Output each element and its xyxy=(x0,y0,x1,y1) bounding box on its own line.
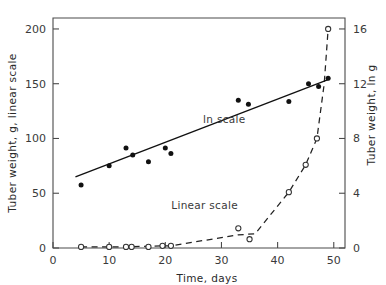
linear-scale-point xyxy=(303,162,308,167)
ln-scale-point xyxy=(286,99,291,104)
linear-scale-point xyxy=(160,243,165,248)
chart-canvas: 01020304050 050100150200 0481216 ln scal… xyxy=(0,0,386,285)
y-tick-label: 100 xyxy=(25,132,46,145)
linear-scale-point xyxy=(286,190,291,195)
x-tick-label: 0 xyxy=(50,254,57,267)
ln-scale-point xyxy=(236,98,241,103)
x-tick-label: 30 xyxy=(214,254,228,267)
x-tick-label: 40 xyxy=(271,254,285,267)
y-tick-label: 150 xyxy=(25,78,46,91)
y2-tick-label: 16 xyxy=(353,23,367,36)
ln-scale-point xyxy=(316,84,321,89)
linear-scale-point xyxy=(107,244,112,249)
ln-scale-point xyxy=(130,152,135,157)
x-tick-label: 50 xyxy=(327,254,341,267)
annotation-ln-scale: ln scale xyxy=(203,113,245,125)
ln-scale-point xyxy=(326,76,331,81)
y-tick-label: 0 xyxy=(39,242,46,255)
linear-scale-point xyxy=(168,243,173,248)
y2-tick-label: 8 xyxy=(353,132,360,145)
ln-scale-point xyxy=(168,151,173,156)
linear-scale-point xyxy=(247,237,252,242)
y-tick-label: 50 xyxy=(32,187,46,200)
chart-figure: 01020304050 050100150200 0481216 ln scal… xyxy=(0,0,386,285)
y-axis-left-title: Tuber weight, g, linear scale xyxy=(6,53,18,213)
x-axis-title: Time, days xyxy=(175,272,237,284)
y2-tick-label: 4 xyxy=(353,187,360,200)
linear-scale-point xyxy=(78,244,83,249)
x-tick-label: 20 xyxy=(158,254,172,267)
y-axis-right-title: Tuber weight, ln g xyxy=(365,64,377,166)
linear-scale-point xyxy=(146,244,151,249)
linear-scale-point xyxy=(129,244,134,249)
annotation-linear-scale: Linear scale xyxy=(171,199,238,211)
ln-scale-point xyxy=(107,163,112,168)
linear-scale-point xyxy=(314,136,319,141)
ln-scale-point xyxy=(306,81,311,86)
ln-scale-point xyxy=(146,159,151,164)
ln-scale-point xyxy=(124,146,129,151)
linear-scale-point xyxy=(236,226,241,231)
ln-scale-point xyxy=(163,146,168,151)
linear-scale-point xyxy=(326,26,331,31)
ln-scale-point xyxy=(79,183,84,188)
y2-tick-label: 0 xyxy=(353,242,360,255)
x-tick-label: 10 xyxy=(102,254,116,267)
chart-background xyxy=(0,0,386,285)
y-tick-label: 200 xyxy=(25,23,46,36)
ln-scale-point xyxy=(246,102,251,107)
linear-scale-point xyxy=(123,244,128,249)
